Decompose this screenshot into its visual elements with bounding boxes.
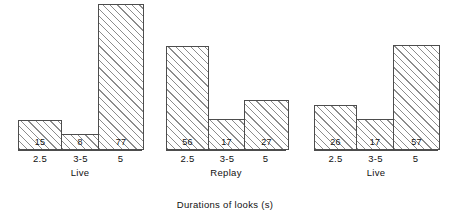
bar-value-label: 8 — [62, 137, 98, 148]
bar-value-label: 77 — [99, 137, 143, 148]
bar-live1-3-5[interactable]: 8 — [61, 134, 99, 150]
panel-label-replay: Replay — [166, 167, 286, 179]
x-tick-5: 5 — [394, 153, 437, 165]
bar-series-2: 56 17 27 — [166, 46, 289, 150]
x-tick-5: 5 — [99, 153, 142, 165]
plot-area-3: 26 17 57 — [314, 4, 438, 150]
plot-area-2: 56 17 27 — [166, 4, 286, 150]
bar-value-label: 17 — [357, 137, 393, 148]
bar-replay-5[interactable]: 27 — [244, 100, 289, 150]
x-tick-labels-2: 2.5 3-5 5 — [166, 153, 286, 165]
x-axis-line-2 — [166, 150, 286, 151]
chart-panel-replay: 56 17 27 2.5 3-5 5 Replay — [166, 4, 286, 179]
x-tick-labels-1: 2.5 3-5 5 — [18, 153, 142, 165]
x-tick-2.5: 2.5 — [314, 153, 357, 165]
bar-value-label: 57 — [394, 137, 439, 148]
x-tick-5: 5 — [245, 153, 286, 165]
x-tick-3-5: 3-5 — [62, 153, 99, 165]
x-axis-line-1 — [18, 150, 142, 151]
panel-label-live-1: Live — [18, 167, 142, 179]
bar-value-label: 17 — [209, 137, 244, 148]
bar-live1-2.5[interactable]: 15 — [18, 120, 62, 150]
x-tick-2.5: 2.5 — [18, 153, 62, 165]
bar-series-1: 15 8 77 — [18, 4, 144, 150]
x-axis-line-3 — [314, 150, 438, 151]
bar-live2-5[interactable]: 57 — [393, 45, 440, 150]
x-tick-labels-3: 2.5 3-5 5 — [314, 153, 438, 165]
x-tick-2.5: 2.5 — [166, 153, 209, 165]
bar-value-label: 27 — [245, 137, 288, 148]
bar-live2-3-5[interactable]: 17 — [356, 119, 394, 150]
histogram-figure: 15 8 77 2.5 3-5 5 Live 56 — [0, 0, 450, 217]
bar-series-3: 26 17 57 — [314, 45, 440, 150]
chart-panel-live-2: 26 17 57 2.5 3-5 5 Live — [314, 4, 438, 179]
x-axis-caption: Durations of looks (s) — [0, 199, 450, 211]
chart-panel-live-1: 15 8 77 2.5 3-5 5 Live — [18, 4, 142, 179]
bar-live2-2.5[interactable]: 26 — [314, 105, 357, 150]
x-tick-3-5: 3-5 — [357, 153, 394, 165]
bar-value-label: 56 — [167, 137, 208, 148]
bar-value-label: 15 — [19, 137, 61, 148]
bar-value-label: 26 — [315, 137, 356, 148]
plot-area-1: 15 8 77 — [18, 4, 142, 150]
panel-label-live-2: Live — [314, 167, 438, 179]
bar-replay-2.5[interactable]: 56 — [166, 46, 209, 150]
bar-live1-5[interactable]: 77 — [98, 4, 144, 150]
bar-replay-3-5[interactable]: 17 — [208, 119, 245, 150]
x-tick-3-5: 3-5 — [209, 153, 245, 165]
